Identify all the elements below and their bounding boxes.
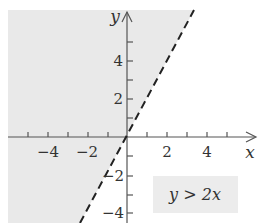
inequality-label: y > 2x <box>168 185 221 204</box>
x-axis-label: x <box>245 142 255 162</box>
y-axis-label: y <box>109 6 120 26</box>
inequality-graph: −4 −2 2 4 4 2 −2 −4 x y y > 2x <box>0 0 263 223</box>
x-tick-label: 2 <box>162 143 172 161</box>
y-tick-label: −2 <box>102 167 124 185</box>
x-tick-label: −2 <box>76 143 98 161</box>
y-tick-label: −4 <box>102 204 124 222</box>
y-tick-label: 4 <box>113 52 123 70</box>
x-tick-label: 4 <box>202 143 212 161</box>
y-tick-label: 2 <box>113 90 123 108</box>
x-tick-label: −4 <box>37 143 59 161</box>
